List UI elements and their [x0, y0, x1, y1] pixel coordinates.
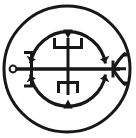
left-ring-terminal: [10, 66, 17, 73]
sigil-vector-drawing: [0, 0, 136, 138]
sigil-image-canvas: sigil-seal Circular occult seal: an oute…: [0, 0, 136, 138]
